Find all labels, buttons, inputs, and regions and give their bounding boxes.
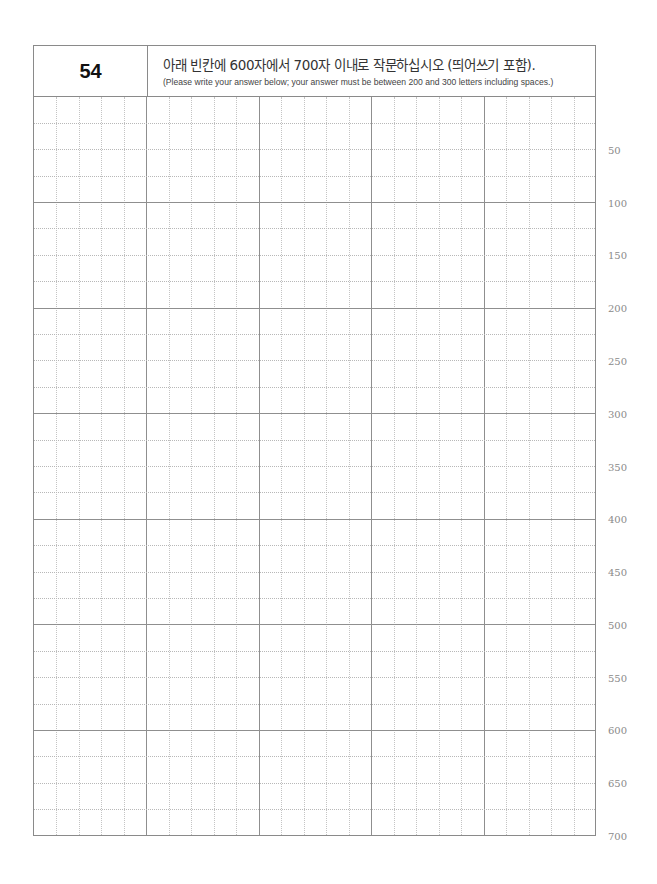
grid-row-line bbox=[34, 440, 595, 441]
grid-row-line bbox=[34, 598, 595, 599]
character-count-label: 600 bbox=[608, 725, 627, 736]
question-number: 54 bbox=[34, 46, 148, 96]
grid-major-row-line bbox=[34, 413, 595, 414]
grid-row-line bbox=[34, 809, 595, 810]
character-count-label: 500 bbox=[608, 619, 627, 630]
character-count-label: 550 bbox=[608, 672, 627, 683]
character-count-label: 250 bbox=[608, 355, 627, 366]
grid-row-line bbox=[34, 545, 595, 546]
instructions: 아래 빈칸에 600자에서 700자 이내로 작문하십시오 (띄어쓰기 포함).… bbox=[148, 46, 595, 96]
grid-major-row-line bbox=[34, 308, 595, 309]
grid-row-line bbox=[34, 466, 595, 467]
grid-row-line bbox=[34, 704, 595, 705]
manuscript-answer-grid[interactable] bbox=[33, 97, 596, 836]
character-count-label: 300 bbox=[608, 408, 627, 419]
character-count-label: 450 bbox=[608, 567, 627, 578]
grid-row-line bbox=[34, 123, 595, 124]
grid-row-line bbox=[34, 228, 595, 229]
grid-row-line bbox=[34, 492, 595, 493]
grid-row-line bbox=[34, 387, 595, 388]
grid-row-line bbox=[34, 677, 595, 678]
grid-row-line bbox=[34, 572, 595, 573]
grid-row-line bbox=[34, 176, 595, 177]
question-header: 54 아래 빈칸에 600자에서 700자 이내로 작문하십시오 (띄어쓰기 포… bbox=[33, 45, 596, 97]
grid-major-row-line bbox=[34, 624, 595, 625]
grid-row-line bbox=[34, 651, 595, 652]
answer-sheet: 54 아래 빈칸에 600자에서 700자 이내로 작문하십시오 (띄어쓰기 포… bbox=[33, 45, 596, 836]
character-count-label: 350 bbox=[608, 461, 627, 472]
character-count-label: 200 bbox=[608, 303, 627, 314]
grid-row-line bbox=[34, 334, 595, 335]
instruction-korean: 아래 빈칸에 600자에서 700자 이내로 작문하십시오 (띄어쓰기 포함). bbox=[163, 54, 595, 74]
grid-major-row-line bbox=[34, 202, 595, 203]
character-count-label: 400 bbox=[608, 514, 627, 525]
grid-row-line bbox=[34, 783, 595, 784]
grid-row-line bbox=[34, 756, 595, 757]
grid-row-line bbox=[34, 281, 595, 282]
grid-row-line bbox=[34, 360, 595, 361]
grid-row-line bbox=[34, 255, 595, 256]
character-count-label: 700 bbox=[608, 831, 627, 842]
character-count-label: 150 bbox=[608, 250, 627, 261]
grid-row-line bbox=[34, 149, 595, 150]
grid-major-row-line bbox=[34, 730, 595, 731]
character-count-markers: 5010015020025030035040045050055060065070… bbox=[608, 97, 648, 857]
character-count-label: 50 bbox=[608, 144, 621, 155]
character-count-label: 650 bbox=[608, 778, 627, 789]
grid-major-row-line bbox=[34, 519, 595, 520]
instruction-english: (Please write your answer below; your an… bbox=[163, 77, 595, 87]
character-count-label: 100 bbox=[608, 197, 627, 208]
